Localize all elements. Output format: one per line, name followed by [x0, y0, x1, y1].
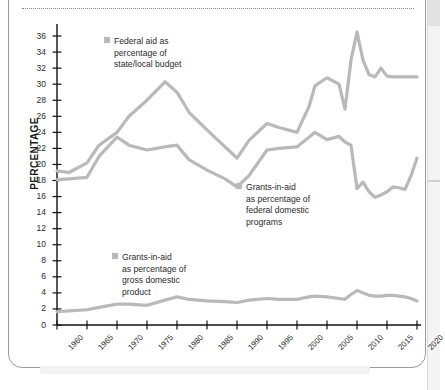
- legend-federal-domestic-line2: as percentage of: [246, 194, 310, 206]
- y-tick-2: 2: [24, 304, 46, 313]
- y-tick-18: 18: [24, 176, 46, 185]
- y-tick-26: 26: [24, 112, 46, 121]
- y-tick-22: 22: [24, 144, 46, 153]
- legend-swatch-icon: [112, 253, 118, 259]
- legend-federal-aid-line1: Federal aid as: [114, 36, 168, 46]
- y-tick-8: 8: [24, 256, 46, 265]
- legend-federal-domestic-line3: federal domestic: [246, 205, 310, 217]
- legend-federal-domestic-line4: programs: [246, 217, 310, 229]
- y-tick-24: 24: [24, 128, 46, 137]
- y-tick-30: 30: [24, 80, 46, 89]
- y-tick-16: 16: [24, 192, 46, 201]
- series-line-2: [57, 290, 417, 311]
- y-tick-34: 34: [24, 48, 46, 57]
- legend-gdp-line2: as percentage of: [122, 264, 186, 276]
- y-tick-0: 0: [24, 321, 46, 330]
- y-tick-32: 32: [24, 64, 46, 73]
- y-tick-28: 28: [24, 96, 46, 105]
- legend-federal-aid-line2: percentage of: [114, 48, 181, 60]
- y-tick-20: 20: [24, 160, 46, 169]
- legend-federal-aid-line3: state/local budget: [114, 59, 181, 71]
- legend-gdp-line1: Grants-in-aid: [122, 252, 172, 262]
- y-tick-36: 36: [24, 32, 46, 41]
- legend-gdp-line4: product: [122, 287, 186, 299]
- y-tick-14: 14: [24, 208, 46, 217]
- y-tick-12: 12: [24, 224, 46, 233]
- legend-federal-aid: Federal aid as percentage of state/local…: [104, 36, 181, 71]
- y-tick-6: 6: [24, 272, 46, 281]
- legend-gdp: Grants-in-aid as percentage of gross dom…: [112, 252, 186, 298]
- legend-swatch-icon: [104, 37, 110, 43]
- legend-federal-domestic-line1: Grants-in-aid: [246, 182, 296, 192]
- y-tick-10: 10: [24, 240, 46, 249]
- legend-swatch-icon: [236, 183, 242, 189]
- legend-gdp-line3: gross domestic: [122, 275, 186, 287]
- legend-federal-domestic: Grants-in-aid as percentage of federal d…: [236, 182, 310, 228]
- y-tick-4: 4: [24, 288, 46, 297]
